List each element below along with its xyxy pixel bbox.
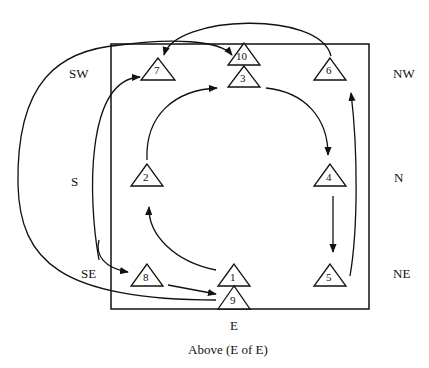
box-side-label: E xyxy=(230,318,238,334)
direction-label-se: SE xyxy=(81,266,96,282)
node-label-5: 5 xyxy=(326,271,332,283)
edge-3-to-4 xyxy=(266,88,328,155)
node-label-9: 9 xyxy=(230,294,236,306)
node-label-10: 10 xyxy=(236,50,247,62)
edge-9-to-10 xyxy=(18,41,232,300)
node-label-8: 8 xyxy=(143,271,149,283)
node-label-3: 3 xyxy=(240,72,246,84)
direction-label-nw: NW xyxy=(393,66,415,82)
edge-1-to-2 xyxy=(149,207,216,270)
node-label-2: 2 xyxy=(143,171,149,183)
edge-2-to-3 xyxy=(147,88,217,160)
direction-label-ne: NE xyxy=(393,266,410,282)
node-label-1: 1 xyxy=(230,271,236,283)
direction-label-n: N xyxy=(394,170,403,186)
edge-7-to-8 xyxy=(98,240,128,272)
direction-label-s: S xyxy=(71,174,78,190)
node-label-6: 6 xyxy=(326,64,332,76)
direction-label-sw: SW xyxy=(69,66,89,82)
node-label-7: 7 xyxy=(154,64,160,76)
edge-8-to-7 xyxy=(93,77,140,260)
diagram-caption: Above (E of E) xyxy=(188,342,268,358)
node-label-4: 4 xyxy=(326,171,332,183)
edge-8-to-9 xyxy=(168,285,216,294)
diagram-canvas xyxy=(0,0,429,368)
edge-5-to-6 xyxy=(350,93,356,276)
